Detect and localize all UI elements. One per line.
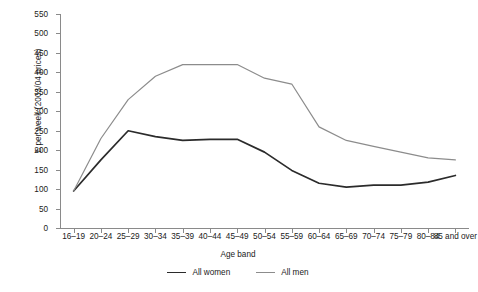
legend-line-swatch <box>167 272 186 273</box>
x-axis-title: Age band <box>0 250 476 259</box>
y-axis-tick-label: 350 <box>34 87 48 96</box>
y-axis-tick-label: 0 <box>43 224 48 233</box>
y-axis-tick-label: 50 <box>39 204 48 213</box>
y-axis-tick-label: 150 <box>34 165 48 174</box>
series-line <box>74 65 456 191</box>
legend-label: All women <box>192 268 230 277</box>
y-axis-tick-label: 450 <box>34 48 48 57</box>
y-axis-tick-label: 100 <box>34 185 48 194</box>
legend-label: All men <box>281 268 308 277</box>
legend-item[interactable]: All men <box>256 268 308 277</box>
chart-legend: All womenAll men <box>0 268 476 277</box>
legend-line-swatch <box>256 272 275 273</box>
series-lines <box>60 14 469 229</box>
y-axis-tick-labels: 050100150200250300350400450500550 <box>0 0 55 292</box>
x-axis-tick-label: 85 and over <box>432 232 478 242</box>
plot-area <box>60 14 469 228</box>
series-line <box>74 131 456 191</box>
y-axis-tick-label: 500 <box>34 29 48 38</box>
y-axis-tick-label: 250 <box>34 126 48 135</box>
y-axis-tick-label: 200 <box>34 146 48 155</box>
legend-item[interactable]: All women <box>167 268 230 277</box>
y-axis-tick-label: 400 <box>34 68 48 77</box>
y-axis-tick-label: 550 <box>34 10 48 19</box>
y-axis-tick-label: 300 <box>34 107 48 116</box>
